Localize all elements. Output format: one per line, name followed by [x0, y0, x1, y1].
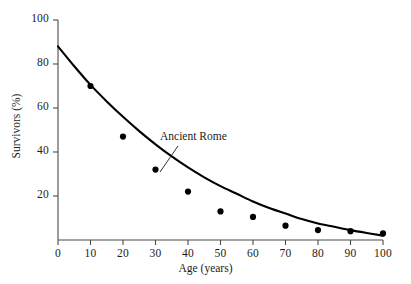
y-axis-title: Survivors (%) — [10, 76, 22, 176]
chart-canvas — [0, 0, 411, 284]
y-tick-label: 60 — [0, 100, 49, 112]
data-point — [315, 227, 321, 233]
data-point — [347, 228, 353, 234]
y-tick-label: 100 — [0, 12, 49, 24]
y-tick-label: 80 — [0, 56, 49, 68]
data-point — [282, 223, 288, 229]
survivorship-chart: 20406080100 0102030405060708090100 Survi… — [0, 0, 411, 284]
data-point — [380, 230, 386, 236]
data-point — [250, 214, 256, 220]
data-point-group — [87, 83, 386, 237]
x-axis-title: Age (years) — [0, 262, 411, 274]
y-tick-label: 40 — [0, 144, 49, 156]
data-point — [185, 189, 191, 195]
series-annotation-ancient-rome: Ancient Rome — [160, 130, 227, 142]
data-point — [120, 134, 126, 140]
data-point — [217, 208, 223, 214]
data-point — [152, 167, 158, 173]
x-tick-label: 100 — [363, 247, 403, 259]
x-axis-ticks — [58, 240, 383, 245]
data-point — [87, 83, 93, 89]
y-tick-label: 20 — [0, 188, 49, 200]
